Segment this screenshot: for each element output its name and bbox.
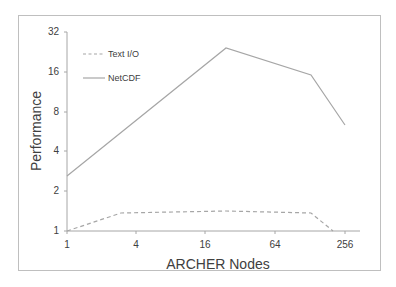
legend-text-io-label: Text I/O (108, 49, 139, 59)
x-tick-label: 1 (64, 239, 70, 250)
legend-netcdf-label: NetCDF (108, 73, 141, 83)
y-tick-label: 8 (53, 106, 59, 117)
y-axis-title: Performance (28, 91, 44, 171)
y-tick-label: 2 (53, 185, 59, 196)
x-tick-label: 256 (337, 239, 354, 250)
y-tick-label: 1 (53, 225, 59, 236)
y-tick-label: 16 (48, 66, 60, 77)
y-tick-label: 4 (53, 145, 59, 156)
y-tick-label: 32 (48, 26, 60, 37)
x-axis-title: ARCHER Nodes (166, 256, 269, 272)
series-netcdf-line (67, 48, 345, 176)
x-tick-label: 16 (199, 239, 211, 250)
x-tick-label: 64 (269, 239, 281, 250)
x-tick-label: 4 (133, 239, 139, 250)
series-text-io-line (67, 211, 333, 231)
line-chart: 32 16 8 4 2 1 1 4 16 64 256 ARCHER Nodes… (0, 0, 396, 287)
legend: Text I/O NetCDF (83, 49, 141, 83)
